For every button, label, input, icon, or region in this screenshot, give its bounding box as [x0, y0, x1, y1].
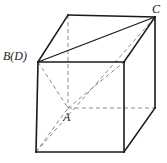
visible-diagonals-group — [38, 17, 155, 62]
vertex-label-bd: B(D) — [3, 50, 27, 62]
back-left-slant-hidden-edge — [38, 62, 68, 108]
back-top-edge — [68, 15, 155, 17]
bottom-right-slant-edge — [124, 108, 155, 152]
top-face-diagonal-BD-to-C — [38, 17, 155, 62]
cube-figure: B(D) C A — [0, 0, 167, 163]
hidden-edges-group — [36, 15, 155, 152]
top-left-slant-edge — [38, 15, 68, 62]
vertex-label-c: C — [152, 3, 160, 15]
hidden-diagonal-A-to-front-top-right — [68, 62, 124, 108]
visible-edges-group — [36, 15, 155, 152]
front-left-edge — [36, 62, 38, 152]
cube-drawing — [0, 0, 167, 163]
top-right-slant-edge — [124, 17, 155, 62]
vertex-label-a: A — [63, 111, 70, 123]
